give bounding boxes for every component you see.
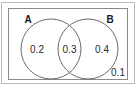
- region-intersection-value: 0.3: [63, 44, 77, 55]
- set-b-label: B: [106, 14, 113, 25]
- region-b-only-value: 0.4: [95, 44, 109, 55]
- region-outside-value: 0.1: [111, 67, 125, 78]
- venn-diagram-figure: A B 0.2 0.3 0.4 0.1: [0, 0, 137, 90]
- region-a-only-value: 0.2: [30, 44, 44, 55]
- set-a-label: A: [24, 14, 31, 25]
